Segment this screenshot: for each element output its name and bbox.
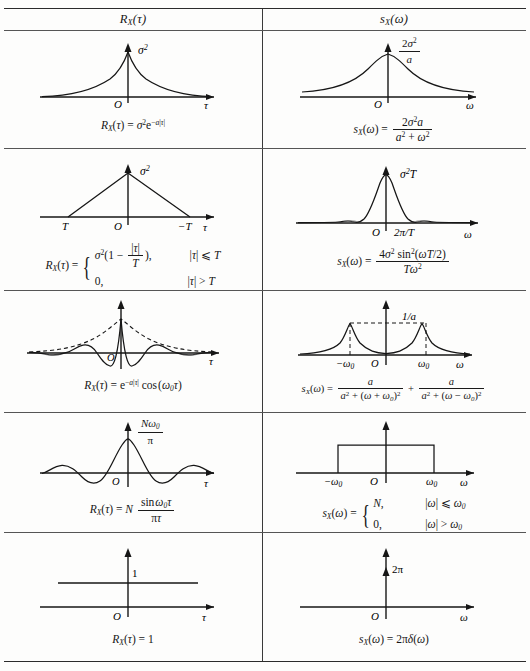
cell-delta-spectral-density: 2π O ω sX(ω) = 2πδ(ω) <box>262 533 526 661</box>
formula-constant-autocorrelation: RX(τ) = 1 <box>4 633 262 648</box>
origin-label: O <box>371 358 379 369</box>
y-axis-label: σ2 <box>138 43 148 56</box>
formula-rectangular-spectral-density: sX(ω) = { N,|ω| ⩽ ω0 0,|ω| > ω0 <box>262 493 526 532</box>
cell-damped-cosine-spectral-density: 1/a −ω0 O ω0 ω sX(ω) = aa2 + (ω + ω0)2 +… <box>262 291 526 412</box>
origin-label: O <box>114 220 122 232</box>
constant-one-plot: 1 O τ <box>18 543 248 627</box>
tick-label-left: −ω0 <box>324 476 343 489</box>
cell-rectangular-spectral-density: −ω0 O ω0 ω sX(ω) = { N,|ω| ⩽ ω0 0,|ω| > … <box>262 413 526 532</box>
x-axis-label: ω <box>466 99 474 111</box>
damped-cosine-plot: O τ <box>13 295 253 375</box>
origin-label: O <box>107 352 115 363</box>
origin-label: O <box>371 610 379 622</box>
cell-damped-cosine-autocorrelation: O τ RX(τ) = e−a|τ| cos (ω0τ) <box>4 291 262 412</box>
y-axis-label: 2π <box>392 563 404 575</box>
x-axis-label: ω <box>456 358 464 370</box>
formula-damped-cosine-autocorrelation: RX(τ) = e−a|τ| cos (ω0τ) <box>4 379 262 394</box>
double-lorentzian-plot: 1/a −ω0 O ω0 ω <box>276 295 512 375</box>
formula-triangular-spectral-density: sX(ω) = 4σ2 sin2(ωT/2)Tω2 <box>262 247 526 277</box>
header-cell-autocorrelation: RX(τ) <box>4 9 262 30</box>
formula-exponential-autocorrelation: RX(τ) = σ2e−a|τ| <box>4 119 262 134</box>
table-header-row: RX(τ) sX(ω) <box>4 9 526 31</box>
two-sided-exponential-plot: σ2 O τ <box>18 35 248 113</box>
x-axis-label: ω <box>460 611 468 623</box>
cell-exponential-autocorrelation: σ2 O τ RX(τ) = σ2e−a|τ| <box>4 31 262 148</box>
table-row: O τ RX(τ) = e−a|τ| cos (ω0τ) <box>4 291 526 413</box>
y-axis-label-fraction: Nω0π <box>136 417 165 447</box>
sinc-squared-plot: σ2T O 2π/T ω <box>276 157 512 241</box>
triangular-plot: σ2 T O −T τ <box>18 155 248 237</box>
x-axis-label: τ <box>204 477 209 489</box>
header-label-left: RX(τ) <box>120 12 147 27</box>
cell-triangular-spectral-density: σ2T O 2π/T ω sX(ω) = 4σ2 sin2(ωT/2)Tω2 <box>262 149 526 290</box>
x-axis-label: τ <box>209 355 214 367</box>
delta-impulse-plot: 2π O ω <box>276 543 512 627</box>
header-cell-spectral-density: sX(ω) <box>262 9 526 30</box>
x-axis-label: τ <box>202 611 207 623</box>
fourier-pairs-table: RX(τ) sX(ω) σ2 O τ RX(τ) = σ2e−a <box>4 8 526 662</box>
rectangular-bandpass-plot: −ω0 O ω0 ω <box>276 417 512 491</box>
cell-sinc-autocorrelation: O τ Nω0π RX(τ) = N sin ω0τπτ <box>4 413 262 532</box>
formula-delta-spectral-density: sX(ω) = 2πδ(ω) <box>262 633 526 648</box>
y-axis-label-fraction: 2σ2a <box>397 37 422 66</box>
textbook-table-page: RX(τ) sX(ω) σ2 O τ RX(τ) = σ2e−a <box>0 0 530 671</box>
y-axis-label: σ2 <box>140 164 150 177</box>
lorentzian-plot: O ω <box>276 35 512 113</box>
table-row: σ2 T O −T τ RX(τ) = { σ2(1 − |τ|T),|τ| ⩽… <box>4 149 526 291</box>
origin-label: O <box>372 226 380 238</box>
origin-label: O <box>374 98 382 110</box>
origin-label: O <box>114 98 122 110</box>
formula-exponential-spectral-density: sX(ω) = 2σ2aa2 + ω2 <box>262 115 526 145</box>
tick-label: 2π/T <box>394 226 415 238</box>
y-axis-label: σ2T <box>400 167 418 180</box>
cell-exponential-spectral-density: O ω 2σ2a sX(ω) = 2σ2aa2 + ω2 <box>262 31 526 148</box>
table-row: 1 O τ RX(τ) = 1 2π O ω <box>4 533 526 661</box>
tick-label-right: ω0 <box>426 476 437 489</box>
formula-triangular-autocorrelation: RX(τ) = { σ2(1 − |τ|T),|τ| ⩽ T 0,|τ| > T <box>4 241 262 290</box>
tick-label-right: ω0 <box>418 358 429 371</box>
formula-damped-cosine-spectral-density: sX(ω) = aa2 + (ω + ω0)2 + aa2 + (ω − ω0)… <box>262 375 526 403</box>
header-label-right: sX(ω) <box>380 12 408 27</box>
cell-triangular-autocorrelation: σ2 T O −T τ RX(τ) = { σ2(1 − |τ|T),|τ| ⩽… <box>4 149 262 290</box>
formula-sinc-autocorrelation: RX(τ) = N sin ω0τπτ <box>4 495 262 526</box>
x-axis-label: τ <box>203 221 208 233</box>
sinc-plot: O τ <box>18 417 248 495</box>
tick-label-right: −T <box>178 220 192 232</box>
y-axis-label: 1/a <box>402 310 417 322</box>
x-axis-label: ω <box>464 228 472 240</box>
tick-label-left: −ω0 <box>336 358 355 371</box>
x-axis-label: τ <box>204 99 209 111</box>
origin-label: O <box>370 475 378 487</box>
x-axis-label: ω <box>460 476 468 488</box>
y-axis-label: 1 <box>132 567 138 579</box>
cell-constant-autocorrelation: 1 O τ RX(τ) = 1 <box>4 533 262 661</box>
table-row: O τ Nω0π RX(τ) = N sin ω0τπτ <box>4 413 526 533</box>
origin-label: O <box>112 476 120 487</box>
tick-label-left: T <box>62 220 69 232</box>
origin-label: O <box>113 610 121 622</box>
table-row: σ2 O τ RX(τ) = σ2e−a|τ| O ω <box>4 31 526 149</box>
